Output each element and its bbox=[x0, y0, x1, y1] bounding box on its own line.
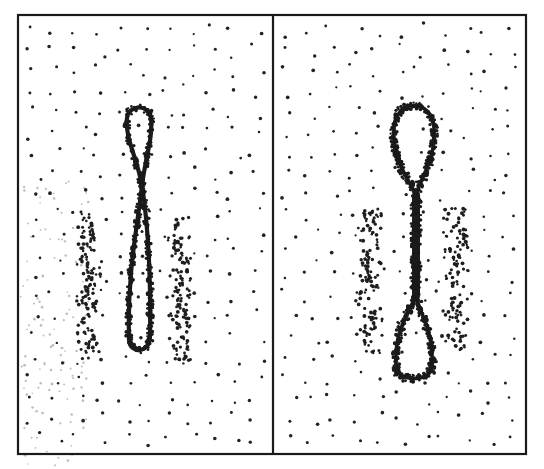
panel-right bbox=[280, 21, 517, 446]
faint-haze-left bbox=[20, 181, 90, 467]
stipple-diagram bbox=[0, 0, 544, 469]
figure-eight-loop-right bbox=[389, 101, 439, 383]
background-stipple-right bbox=[280, 21, 517, 446]
figure-eight-loop-left bbox=[123, 104, 156, 355]
panel-left bbox=[25, 23, 266, 447]
